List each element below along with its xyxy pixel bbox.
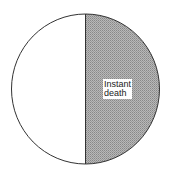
slice-other — [12, 14, 86, 164]
pie-chart — [0, 0, 171, 176]
slice-label-instant-death: Instant death — [103, 79, 132, 99]
slice-label-line2: death — [104, 89, 131, 98]
